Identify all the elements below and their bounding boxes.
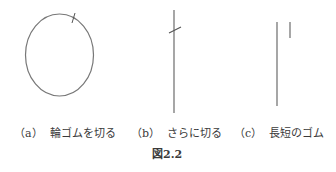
caption-c: （c）長短のゴム bbox=[234, 127, 324, 141]
caption-a-marker: （a） bbox=[14, 127, 43, 140]
caption-c-text: 長短のゴム bbox=[269, 127, 324, 140]
caption-b-marker: （b） bbox=[131, 127, 160, 140]
figure-drawing bbox=[0, 0, 336, 172]
cut-mark-b bbox=[169, 27, 181, 33]
caption-b-text: さらに切る bbox=[167, 127, 222, 140]
panel-b-drawing bbox=[169, 10, 181, 113]
rubber-band-loop bbox=[26, 14, 94, 96]
caption-a: （a）輪ゴムを切る bbox=[14, 127, 116, 141]
figure-label: 図2.2 bbox=[152, 148, 182, 162]
caption-a-text: 輪ゴムを切る bbox=[50, 127, 116, 140]
caption-c-marker: （c） bbox=[234, 127, 262, 140]
caption-b: （b）さらに切る bbox=[131, 127, 222, 141]
panel-c-drawing bbox=[277, 22, 290, 106]
panel-a-drawing bbox=[26, 13, 94, 96]
